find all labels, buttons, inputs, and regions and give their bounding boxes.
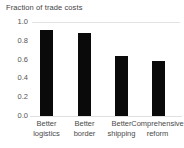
x-tick-label-line1: Better (36, 119, 56, 128)
y-tick-label-0.8: 0.8 (8, 37, 28, 45)
bar-better-border (78, 33, 91, 116)
x-tick-label-line1: Better (74, 119, 94, 128)
y-tick-label-0.4: 0.4 (8, 74, 28, 82)
gridline-1.0 (32, 22, 180, 23)
y-tick-label-1.0: 1.0 (8, 18, 28, 26)
chart-title: Fraction of trade costs (6, 3, 83, 12)
x-tick-label-comprehensive-reform: Comprehensive reform (131, 119, 184, 138)
x-tick-label-line1: Better (111, 119, 131, 128)
bar-comprehensive-reform (152, 61, 165, 116)
bar-chart: Fraction of trade costs 1.0 0.8 0.6 0.4 … (0, 0, 184, 148)
bar-better-logistics (40, 30, 53, 116)
bar-better-shipping (115, 56, 128, 116)
x-tick-label-line2: reform (131, 129, 184, 139)
x-tick-label-line1: Comprehensive (131, 119, 184, 128)
y-tick-label-0.2: 0.2 (8, 93, 28, 101)
x-axis-line (30, 116, 182, 117)
y-tick-label-0.6: 0.6 (8, 56, 28, 64)
